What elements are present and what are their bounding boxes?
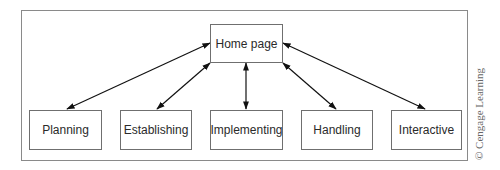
node-label: Planning (42, 123, 89, 137)
node-handling: Handling (301, 110, 373, 150)
node-label: Interactive (399, 123, 454, 137)
node-label: Home page (215, 37, 277, 51)
node-label: Establishing (124, 123, 189, 137)
arrow-home-establishing (157, 63, 210, 109)
node-planning: Planning (29, 110, 102, 150)
node-interactive: Interactive (391, 110, 462, 150)
arrow-home-interactive (283, 43, 425, 109)
node-establishing: Establishing (120, 110, 192, 150)
node-label: Handling (313, 123, 360, 137)
node-home-page: Home page (210, 24, 283, 63)
arrow-home-handling (283, 63, 336, 109)
node-label: Implementing (210, 123, 282, 137)
arrow-home-planning (67, 43, 210, 109)
node-implementing: Implementing (210, 110, 283, 150)
copyright-credit: © Cengage Learning (473, 68, 485, 160)
